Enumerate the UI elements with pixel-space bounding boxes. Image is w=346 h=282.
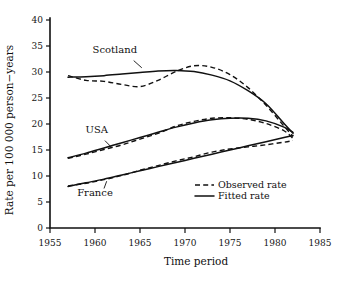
series-annotation-france: France [77, 187, 113, 198]
x-tick-label: 1960 [84, 238, 107, 248]
y-tick-label: 10 [32, 171, 44, 181]
y-tick-label: 20 [32, 119, 44, 129]
x-tick-label: 1975 [219, 238, 242, 248]
x-axis-title: Time period [164, 255, 229, 267]
y-tick-label: 40 [32, 15, 44, 25]
y-tick-label: 15 [32, 145, 44, 155]
annotation-pointer-0 [134, 61, 142, 68]
line-chart-figure: 0510152025303540195519601965197019751980… [0, 0, 346, 282]
chart-container: 0510152025303540195519601965197019751980… [0, 0, 346, 282]
x-tick-label: 1970 [174, 238, 197, 248]
x-tick-label: 1985 [309, 238, 332, 248]
annotations-layer: ScotlandUSAFrance [77, 44, 142, 198]
y-tick-label: 0 [37, 223, 43, 233]
y-axis-title: Rate per 100 000 person−years [3, 45, 15, 215]
x-tick-label: 1955 [39, 238, 62, 248]
x-tick-label: 1980 [264, 238, 287, 248]
legend-label-fitted-rate: Fitted rate [218, 190, 270, 201]
chart-legend: Observed rateFitted rate [195, 179, 287, 201]
y-tick-label: 5 [37, 197, 43, 207]
series-annotation-scotland: Scotland [93, 44, 138, 55]
legend-label-observed-rate: Observed rate [218, 179, 287, 190]
y-tick-label: 25 [32, 93, 44, 103]
axes-layer: 0510152025303540195519601965197019751980… [32, 15, 332, 248]
y-tick-label: 35 [32, 41, 44, 51]
series-annotation-usa: USA [86, 124, 109, 135]
y-tick-label: 30 [32, 67, 44, 77]
x-tick-label: 1965 [129, 238, 152, 248]
